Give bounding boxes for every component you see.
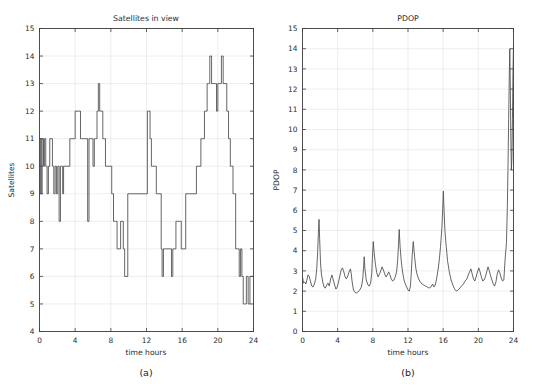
x-axis-title-b: time hours: [388, 348, 429, 357]
svg-text:10: 10: [25, 162, 35, 171]
svg-text:4: 4: [30, 327, 35, 336]
svg-text:24: 24: [509, 336, 519, 345]
grid-lines-b: [303, 29, 514, 332]
svg-text:12: 12: [288, 85, 297, 94]
svg-text:14: 14: [25, 52, 35, 61]
svg-text:0: 0: [293, 327, 298, 336]
svg-text:9: 9: [30, 189, 35, 198]
svg-text:4: 4: [335, 336, 340, 345]
svg-text:12: 12: [25, 107, 34, 116]
svg-text:12: 12: [403, 336, 412, 345]
svg-text:20: 20: [213, 336, 223, 345]
svg-text:7: 7: [293, 186, 298, 195]
chart-satellites-in-view: 456789101112131415 04812162024 Satellite…: [0, 0, 269, 389]
y-tick-labels-a: 456789101112131415: [25, 24, 35, 336]
x-axis-title-a: time hours: [126, 348, 167, 357]
svg-text:24: 24: [249, 336, 259, 345]
panel-pdop: 0123456789101112131415 04812162024 PDOP …: [270, 0, 539, 389]
svg-text:4: 4: [73, 336, 78, 345]
svg-text:6: 6: [293, 206, 298, 215]
svg-text:1: 1: [293, 307, 298, 316]
svg-text:4: 4: [293, 246, 298, 255]
svg-text:11: 11: [25, 134, 35, 143]
svg-text:14: 14: [288, 44, 298, 53]
svg-text:8: 8: [370, 336, 375, 345]
svg-text:16: 16: [177, 336, 187, 345]
y-axis-title-a: Satellites: [7, 162, 16, 197]
svg-text:9: 9: [293, 145, 298, 154]
svg-text:8: 8: [293, 166, 298, 175]
svg-text:8: 8: [108, 336, 113, 345]
svg-text:3: 3: [293, 267, 298, 276]
plot-title-b: PDOP: [397, 14, 419, 23]
svg-text:0: 0: [300, 336, 305, 345]
svg-text:16: 16: [438, 336, 448, 345]
svg-text:8: 8: [30, 217, 35, 226]
svg-text:11: 11: [288, 105, 298, 114]
svg-text:6: 6: [30, 272, 35, 281]
svg-text:7: 7: [30, 245, 35, 254]
panel-caption-a: (a): [139, 367, 152, 378]
svg-text:13: 13: [288, 65, 298, 74]
svg-text:5: 5: [293, 226, 298, 235]
svg-text:0: 0: [37, 336, 42, 345]
plot-title-a: Satellites in view: [113, 14, 180, 23]
svg-text:10: 10: [288, 125, 298, 134]
figure-container: 456789101112131415 04812162024 Satellite…: [0, 0, 539, 389]
y-axis-title-b: PDOP: [272, 169, 281, 190]
svg-text:20: 20: [474, 336, 484, 345]
svg-text:5: 5: [30, 300, 35, 309]
svg-text:12: 12: [142, 336, 151, 345]
svg-text:13: 13: [25, 79, 35, 88]
svg-text:15: 15: [25, 24, 35, 33]
x-tick-labels-a: 04812162024: [37, 336, 258, 345]
svg-text:2: 2: [293, 287, 298, 296]
y-tick-labels-b: 0123456789101112131415: [288, 24, 298, 336]
panel-caption-b: (b): [401, 367, 414, 378]
svg-text:15: 15: [288, 24, 298, 33]
x-tick-labels-b: 04812162024: [300, 336, 518, 345]
chart-pdop: 0123456789101112131415 04812162024 PDOP …: [270, 0, 539, 389]
panel-satellites-in-view: 456789101112131415 04812162024 Satellite…: [0, 0, 269, 389]
